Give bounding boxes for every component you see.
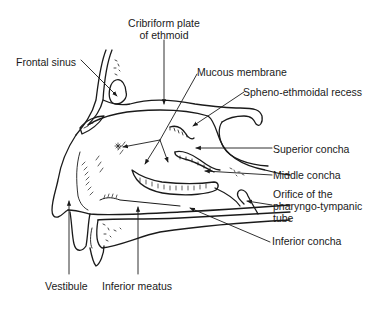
label-vestibule: Vestibule (45, 280, 88, 292)
pharyngeal-wall (215, 188, 240, 206)
inferior-concha-shape (100, 170, 218, 206)
label-line: pharyngo-tympanic (273, 200, 362, 212)
label-spheno-ethmoidal-recess: Spheno-ethmoidal recess (243, 86, 362, 98)
label-cribriform-plate: Cribriform plate of ethmoid (123, 17, 205, 41)
middle-concha-shape (175, 151, 220, 172)
label-frontal-sinus: Frontal sinus (16, 56, 76, 68)
label-middle-concha: Middle concha (273, 169, 341, 181)
nasal-cavity-diagram: Cribriform plate of ethmoid Frontal sinu… (0, 0, 388, 309)
label-inferior-meatus: Inferior meatus (102, 280, 172, 292)
label-line: of ethmoid (123, 29, 205, 41)
label-line: tube (273, 212, 362, 224)
label-inferior-concha: Inferior concha (272, 235, 341, 247)
superior-concha-shape (170, 126, 194, 138)
external-nose (52, 135, 103, 217)
label-line: Cribriform plate (123, 17, 205, 29)
label-orifice-pharyngo-tympanic-tube: Orifice of the pharyngo-tympanic tube (273, 188, 362, 224)
label-line: Orifice of the (273, 188, 362, 200)
nasal-roof (80, 100, 290, 175)
hard-palate (68, 205, 290, 266)
label-superior-concha: Superior concha (273, 143, 349, 155)
label-mucous-membrane: Mucous membrane (197, 66, 287, 78)
